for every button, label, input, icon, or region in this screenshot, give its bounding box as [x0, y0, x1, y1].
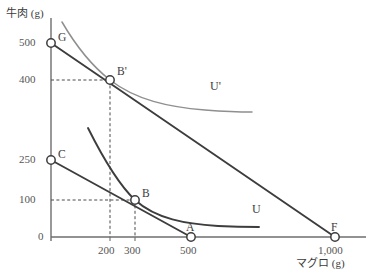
x-tick-label-200: 200	[98, 245, 115, 256]
curve-label-u-prime: U'	[210, 80, 221, 92]
y-tick-label-100: 100	[19, 194, 36, 205]
x-axis-title: マグロ (g)	[296, 258, 345, 269]
point-label-B: B	[142, 188, 150, 200]
point-marker-A	[187, 233, 195, 241]
y-axis-title: 牛肉 (g)	[6, 8, 44, 19]
y-tick-label-0: 0	[38, 231, 44, 242]
y-tick-label-250: 250	[19, 154, 36, 165]
y-tick-label-500: 500	[19, 37, 36, 48]
point-label-C: C	[58, 149, 66, 161]
point-marker-F	[331, 233, 339, 241]
point-marker-C	[47, 156, 55, 164]
y-tick-label-400: 400	[19, 74, 36, 85]
x-tick-label-500: 500	[180, 245, 197, 256]
point-label-F: F	[331, 222, 337, 234]
point-marker-Bprime	[106, 76, 114, 84]
point-label-A: A	[186, 222, 194, 234]
indifference-curve-u-prime	[62, 22, 252, 112]
point-label-Bprime: B'	[117, 66, 127, 78]
point-marker-B	[131, 196, 139, 204]
point-label-G: G	[58, 32, 66, 44]
point-marker-G	[47, 39, 55, 47]
economics-indifference-curve-chart: 牛肉 (g) マグロ (g) 500 400 250 100 0 200 300…	[0, 0, 373, 274]
budget-line-ca	[51, 160, 191, 237]
curve-label-u: U	[252, 203, 261, 215]
x-tick-label-1000: 1,000	[318, 245, 343, 256]
x-tick-label-300: 300	[124, 245, 141, 256]
indifference-curve-u	[88, 128, 259, 227]
